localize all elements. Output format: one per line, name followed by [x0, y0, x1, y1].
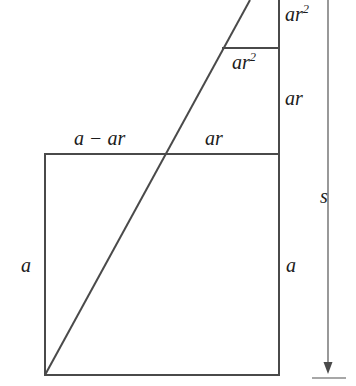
- label-a-right: a: [286, 255, 296, 275]
- label-ar-right-base: ar: [285, 87, 303, 109]
- label-ar-squared-inner-base: ar: [232, 51, 250, 73]
- label-ar-right: ar: [285, 88, 303, 108]
- label-a-minus-ar: a − ar: [74, 128, 125, 148]
- label-ar-squared-outer-base: ar: [285, 3, 303, 25]
- label-ar-top-base: ar: [205, 127, 223, 149]
- figure-canvas: [0, 0, 356, 386]
- diagonal-ray: [45, 0, 250, 375]
- label-a-left-base: a: [21, 254, 31, 276]
- label-ar-squared-inner: ar2: [232, 52, 256, 72]
- label-a-right-base: a: [286, 254, 296, 276]
- label-ar-squared-inner-exponent: 2: [250, 50, 256, 64]
- geometric-series-figure: a − ar ar ar2 ar2 ar a a s: [0, 0, 356, 386]
- label-s-measure-base: s: [320, 185, 328, 207]
- label-s-measure: s: [320, 186, 328, 206]
- label-a-minus-ar-base: a − ar: [74, 127, 125, 149]
- label-a-left: a: [21, 255, 31, 275]
- label-ar-top: ar: [205, 128, 223, 148]
- square-side-a: [45, 154, 279, 375]
- label-ar-squared-outer-exponent: 2: [303, 2, 309, 16]
- label-ar-squared-outer: ar2: [285, 4, 309, 24]
- measure-arrowhead-icon: [324, 362, 333, 374]
